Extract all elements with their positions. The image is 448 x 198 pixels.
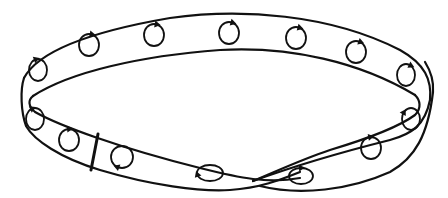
marker-circle: [144, 24, 164, 46]
circular-arrow-icon: [26, 106, 44, 130]
marker-circle: [111, 146, 133, 168]
marker-circle: [219, 22, 239, 44]
cut-line: [91, 134, 98, 170]
strip-bottom-right-lower-edge: [260, 62, 433, 191]
marker-circle: [346, 41, 366, 63]
orientation-markers: [26, 19, 420, 184]
marker-circle: [59, 129, 79, 151]
strip-left-inner-edge: [29, 96, 300, 180]
circular-arrow-icon: [144, 21, 164, 46]
circular-arrow-icon: [346, 38, 366, 63]
strip-top-outer-edge: [24, 14, 430, 100]
circular-arrow-icon: [219, 19, 239, 44]
circular-arrow-icon: [286, 24, 306, 49]
strip-outline: [22, 14, 434, 191]
circular-arrow-icon: [111, 146, 133, 171]
strip-left-edge: [22, 78, 300, 190]
marker-circle: [286, 27, 306, 49]
circular-arrow-icon: [397, 61, 415, 86]
arrowhead-icon: [67, 126, 73, 133]
mobius-strip-diagram: [0, 0, 448, 198]
marker-circle: [361, 137, 381, 159]
